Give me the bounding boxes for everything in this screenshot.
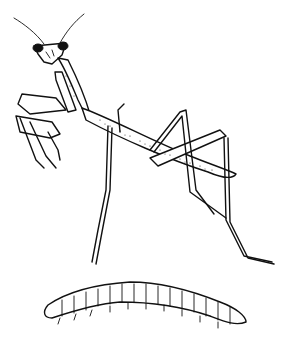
mantis-abdomen xyxy=(82,108,236,178)
mantis-antenna-left xyxy=(14,18,44,44)
mantis-legs xyxy=(92,104,274,264)
larva xyxy=(45,282,246,328)
illustration-canvas xyxy=(0,0,292,337)
mantis-forelegs xyxy=(16,72,76,168)
mantis-antenna-right xyxy=(60,14,84,43)
mantis-illustration xyxy=(0,0,292,337)
